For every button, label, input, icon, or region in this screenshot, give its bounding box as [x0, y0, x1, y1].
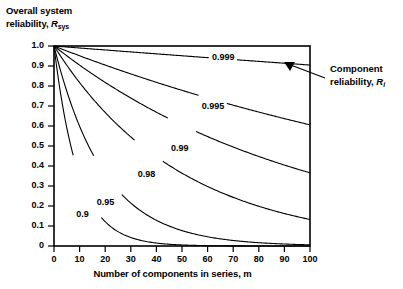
x-axis-title: Number of components in series, m: [0, 268, 345, 279]
x-tick-label: 0: [41, 254, 67, 264]
curve-0.99: [54, 46, 168, 118]
annotation-subscript: i: [383, 81, 385, 88]
x-tick-label: 80: [246, 254, 272, 264]
curve-label-0.95: 0.95: [96, 197, 116, 207]
x-tick-label: 10: [67, 254, 93, 264]
curve-label-0.995: 0.995: [201, 101, 226, 111]
x-tick-label: 60: [195, 254, 221, 264]
y-tick-label: 0.1: [20, 220, 44, 230]
curve-label-0.999: 0.999: [211, 52, 236, 62]
y-tick-label: 0.8: [20, 80, 44, 90]
curve-0.95: [122, 195, 310, 245]
x-tick-label: 50: [169, 254, 195, 264]
curve-label-0.99: 0.99: [170, 143, 190, 153]
curve-label-0.98: 0.98: [137, 169, 157, 179]
x-tick-label: 40: [143, 254, 169, 264]
y-axis-ticks: [48, 46, 54, 246]
y-tick-label: 0.6: [20, 120, 44, 130]
component-reliability-annotation: Component reliability, Ri: [330, 62, 385, 91]
annotation-line2: reliability,: [330, 76, 374, 87]
curve-0.999: [54, 46, 209, 58]
annotation-line1: Component: [330, 63, 383, 74]
y-tick-label: 0.4: [20, 160, 44, 170]
x-axis-title-text: Number of components in series, m: [93, 268, 251, 279]
y-tick-label: 1.0: [20, 40, 44, 50]
curve-0.999: [237, 60, 310, 65]
x-axis-ticks: [54, 246, 310, 252]
curve-0.98: [163, 161, 310, 219]
y-tick-label: 0.3: [20, 180, 44, 190]
x-tick-label: 20: [92, 254, 118, 264]
y-tick-label: 0.7: [20, 100, 44, 110]
curve-0.95: [54, 46, 94, 156]
x-tick-label: 90: [271, 254, 297, 264]
y-tick-label: 0.5: [20, 140, 44, 150]
x-tick-label: 100: [297, 254, 323, 264]
x-tick-label: 70: [220, 254, 246, 264]
curve-0.99: [196, 132, 310, 173]
curve-0.995: [227, 103, 310, 124]
curve-0.995: [54, 46, 199, 95]
curve-label-0.9: 0.9: [75, 209, 90, 219]
y-tick-label: 0.9: [20, 60, 44, 70]
x-tick-label: 30: [118, 254, 144, 264]
curve-0.9: [101, 218, 310, 246]
y-tick-label: 0: [20, 240, 44, 250]
reliability-chart-figure: Overall system reliability, Rsys: [0, 0, 403, 289]
plot-area: [0, 0, 403, 289]
y-tick-label: 0.2: [20, 200, 44, 210]
